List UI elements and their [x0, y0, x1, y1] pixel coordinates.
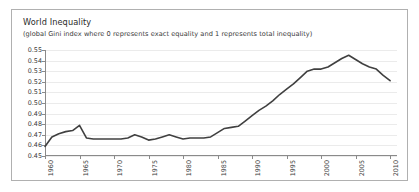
y-axis-tick-label: 0.55	[28, 47, 42, 53]
x-axis-tick-label: 1995	[290, 160, 296, 176]
plot-area: 0.550.540.530.520.510.500.490.480.470.46…	[45, 50, 397, 156]
x-axis-tick-label: 1970	[117, 160, 123, 176]
chart-title: World Inequality	[23, 17, 91, 27]
y-axis-tick-label: 0.47	[28, 132, 42, 138]
x-axis-tick	[80, 156, 81, 159]
x-axis-tick	[252, 156, 253, 159]
x-axis-tick-label: 1975	[152, 160, 158, 176]
x-axis-tick-label: 1985	[221, 160, 227, 176]
x-axis-tick	[114, 156, 115, 159]
x-axis-tick	[183, 156, 184, 159]
y-axis-tick-label: 0.46	[28, 142, 42, 148]
y-axis-tick-label: 0.49	[28, 110, 42, 116]
y-axis-tick-label: 0.50	[28, 100, 42, 106]
x-axis-tick-label: 2000	[324, 160, 330, 176]
x-axis-tick-label: 2005	[359, 160, 365, 176]
y-axis-tick-label: 0.45	[28, 153, 42, 159]
x-axis-tick-label: 1990	[255, 160, 261, 176]
gridline	[45, 156, 397, 157]
data-line-series	[45, 50, 397, 156]
y-axis-tick-label: 0.54	[28, 57, 42, 63]
x-axis-tick-label: 2010	[393, 160, 399, 176]
y-axis-tick-label: 0.53	[28, 68, 42, 74]
x-axis-tick	[321, 156, 322, 159]
y-axis-tick-label: 0.51	[28, 89, 42, 95]
y-axis-tick-label: 0.52	[28, 79, 42, 85]
x-axis-tick-label: 1980	[186, 160, 192, 176]
x-axis-tick	[218, 156, 219, 159]
x-axis-tick-label: 1960	[48, 160, 54, 176]
chart-subtitle: (global Gini index where 0 represents ex…	[23, 30, 312, 38]
x-axis-tick-label: 1965	[83, 160, 89, 176]
series-line	[45, 55, 390, 146]
x-axis-tick	[149, 156, 150, 159]
y-axis-tick-label: 0.48	[28, 121, 42, 127]
x-axis-tick	[390, 156, 391, 159]
x-axis-tick	[287, 156, 288, 159]
x-axis-tick	[45, 156, 46, 159]
x-axis-tick	[356, 156, 357, 159]
chart-figure: World Inequality (global Gini index wher…	[11, 9, 408, 181]
